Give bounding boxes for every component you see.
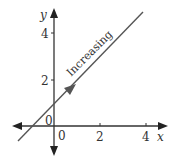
x-tick-label-0: 0	[58, 129, 66, 143]
direction-arrow-icon	[64, 84, 76, 95]
x-axis-left-arrow-icon	[12, 122, 22, 130]
y-tick-label-0: 0	[45, 114, 53, 128]
line-annotation: Increasing	[64, 28, 115, 79]
y-tick-label-2: 2	[41, 74, 49, 88]
x-axis-label: x	[157, 130, 164, 144]
increasing-line	[18, 12, 143, 141]
chart-canvas: 0 2 4 x 0 2 4 y Increasing	[0, 0, 180, 161]
y-axis	[50, 8, 58, 156]
x-axis-right-arrow-icon	[158, 122, 168, 130]
x-tick-label-2: 2	[96, 130, 104, 144]
y-axis-up-arrow-icon	[50, 8, 58, 18]
y-axis-label: y	[39, 8, 47, 22]
x-tick-label-4: 4	[142, 130, 150, 144]
y-tick-label-4: 4	[41, 27, 49, 41]
y-axis-down-arrow-icon	[50, 146, 58, 156]
